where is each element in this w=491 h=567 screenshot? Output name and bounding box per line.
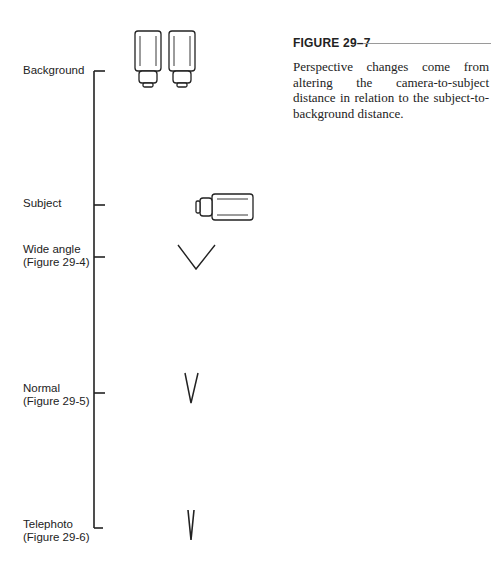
- distance-scale: [94, 71, 105, 528]
- bottle-icon: [169, 31, 195, 87]
- telephoto-view-icon: [188, 510, 194, 540]
- perspective-diagram: [0, 0, 491, 567]
- subject-camera-icon: [196, 194, 253, 220]
- bottle-icon: [135, 31, 161, 87]
- wide-angle-view-icon: [178, 245, 215, 269]
- normal-view-icon: [185, 373, 198, 403]
